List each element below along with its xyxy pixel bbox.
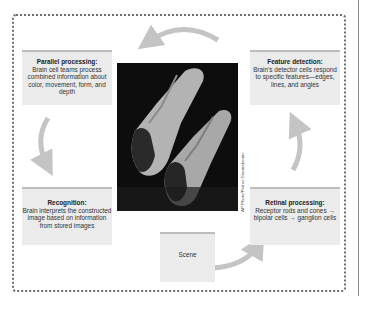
- photo-credit: AP Photo/Petros Giannakouris: [240, 140, 248, 212]
- node-scene: Scene: [160, 232, 215, 282]
- arrow-scene-to-retinal: [212, 245, 258, 268]
- node-title: Parallel processing:: [22, 58, 112, 66]
- node-feature-detection: Feature detection: Brain’s detector cell…: [250, 50, 340, 105]
- node-title: Feature detection:: [250, 58, 340, 66]
- node-parallel-processing: Parallel processing: Brain cell teams pr…: [22, 50, 112, 105]
- arrow-parallel-to-recognition: [41, 118, 48, 165]
- node-body: Brain cell teams process combined inform…: [22, 66, 112, 96]
- node-body: Scene: [160, 251, 215, 259]
- node-body: Receptor rods and cones → bipolar cells …: [250, 207, 340, 222]
- node-title: Retinal processing:: [250, 199, 340, 207]
- arrow-feature-to-parallel: [148, 29, 218, 42]
- node-retinal-processing: Retinal processing: Receptor rods and co…: [250, 187, 340, 245]
- node-body: Brain’s detector cells respond to specif…: [250, 66, 340, 89]
- node-body: Brain interprets the constructed image b…: [22, 207, 112, 230]
- arrow-retinal-to-feature: [293, 123, 300, 170]
- node-recognition: Recognition: Brain interprets the constr…: [22, 187, 112, 245]
- divers-photo: [117, 63, 238, 211]
- divers-illustration: [117, 63, 238, 211]
- node-title: Recognition:: [22, 199, 112, 207]
